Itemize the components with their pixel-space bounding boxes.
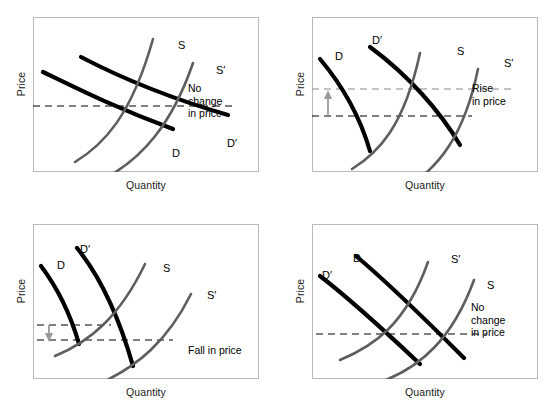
- curve-label-S: S: [163, 262, 170, 274]
- curve-supply-shifted: [103, 294, 191, 379]
- curve-label-Sp: S′: [207, 289, 216, 301]
- x-axis-label: Quantity: [312, 179, 538, 191]
- outcome-note: No change in price: [188, 82, 222, 120]
- curve-demand-original: [41, 266, 79, 344]
- curve-label-Dp: D′: [80, 243, 90, 255]
- price-change-arrow-up: [324, 90, 332, 116]
- plot-area: [33, 17, 259, 172]
- outcome-note: Fall in price: [188, 344, 242, 356]
- curve-label-Sp: S′: [504, 57, 513, 69]
- curve-label-Dp: D′: [372, 34, 382, 46]
- panel-bottom-right: Price Quantity D D′ S′ S No change in pr…: [279, 207, 558, 414]
- curve-label-Sp: S′: [451, 253, 460, 265]
- figure-grid: Price Quantity S S′ D D′ No change in pr…: [0, 0, 558, 414]
- y-axis-label: Price: [294, 261, 306, 321]
- curve-label-Sp: S′: [216, 64, 225, 76]
- panel-top-right: Price Quantity: [279, 0, 558, 207]
- y-axis-label: Price: [15, 54, 27, 114]
- x-axis-label: Quantity: [312, 386, 538, 398]
- curve-label-D: D: [57, 259, 65, 271]
- curve-demand-shifted: [320, 276, 420, 364]
- curve-label-Dp: D′: [322, 269, 332, 281]
- curve-demand-shifted: [370, 47, 460, 145]
- curve-label-D: D: [353, 252, 361, 264]
- curve-label-S: S: [457, 45, 464, 57]
- panel-top-left: Price Quantity S S′ D D′ No change in pr…: [0, 0, 279, 207]
- curve-label-D: D: [335, 50, 343, 62]
- curve-supply-original: [352, 53, 420, 169]
- x-axis-label: Quantity: [33, 179, 259, 191]
- curve-label-S: S: [178, 39, 185, 51]
- y-axis-label: Price: [294, 54, 306, 114]
- curve-demand-shifted: [77, 248, 133, 366]
- y-axis-label: Price: [15, 261, 27, 321]
- curve-label-Dp: D′: [227, 137, 237, 149]
- curve-label-S: S: [487, 279, 494, 291]
- outcome-note: Rise in price: [472, 82, 506, 107]
- curve-label-D: D: [172, 147, 180, 159]
- curve-supply-original: [75, 39, 153, 162]
- x-axis-label: Quantity: [33, 386, 259, 398]
- panel-bottom-left: Price Quantity: [0, 207, 279, 414]
- outcome-note: No change in price: [471, 301, 505, 339]
- curve-demand-original: [43, 72, 173, 129]
